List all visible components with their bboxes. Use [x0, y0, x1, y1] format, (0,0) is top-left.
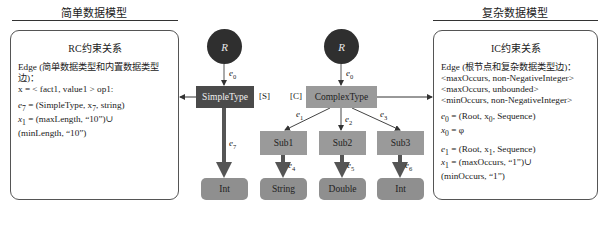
rc-panel-title: RC约束关系: [18, 43, 172, 54]
edge-label-e3: e3: [380, 109, 387, 121]
root-node-complex: R: [324, 29, 359, 64]
ic-edge-description: Edge (根节点和复杂数据类型边)：: [441, 62, 591, 73]
leaf-string: String: [260, 178, 307, 200]
edge-label-e2: e2: [345, 114, 352, 126]
ic-x1-definition: x1 = (maxOccurs, “1”)∪: [441, 157, 591, 171]
ic-constraint-panel: IC约束关系 Edge (根节点和复杂数据类型边)： <maxOccurs, n…: [433, 30, 598, 200]
edge-label-e1: e1: [296, 109, 303, 121]
leaf-int-simple: Int: [201, 178, 248, 200]
root-node-simple: R: [207, 29, 242, 64]
ic-max-occurs-nonneg: <maxOccurs, non-NegativeInteger>: [441, 73, 591, 84]
leaf-int-complex: Int: [377, 178, 424, 200]
edge-label-e0-right: e0: [346, 68, 353, 80]
rc-edge-description: Edge (简单数据类型和内置数据类型边)：: [18, 62, 172, 84]
rc-constraint-panel: RC约束关系 Edge (简单数据类型和内置数据类型边)： x = < fact…: [10, 30, 179, 200]
ic-x0-definition: x0 = φ: [441, 125, 591, 139]
edge-label-e5: e5: [347, 160, 354, 172]
ic-e0-definition: e0 = (Root, x0, Sequence): [441, 111, 591, 125]
ic-max-occurs-unbounded: <maxOccurs, unbounded>: [441, 84, 591, 95]
edge-label-e6: e6: [405, 160, 412, 172]
rc-x-definition: x = < fact1, value1 > op1:: [18, 84, 172, 95]
ic-panel-title: IC约束关系: [441, 43, 591, 54]
edge-label-e0-left: e0: [229, 68, 236, 80]
edge-label-e7: e7: [229, 138, 236, 150]
simple-type-node: SimpleType: [196, 86, 254, 108]
complex-tag: [C]: [290, 91, 302, 101]
complex-type-node: ComplexType: [306, 86, 377, 108]
sub1-node: Sub1: [260, 131, 307, 155]
leaf-double: Double: [319, 178, 366, 200]
sub3-node: Sub3: [377, 131, 424, 155]
ic-x1-definition-cont: (minOccurs, “1”): [441, 171, 591, 182]
simple-tag: [S]: [259, 91, 270, 101]
rc-x1-definition-cont: (minLength, “10”): [18, 128, 172, 139]
sub2-node: Sub2: [319, 131, 366, 155]
edge-label-e4: e4: [288, 160, 295, 172]
rc-x1-definition: x1 = (maxLength, “10”)∪: [18, 114, 172, 128]
rc-e7-definition: e7 = (SimpleType, x7, string): [18, 100, 172, 114]
ic-min-occurs-nonneg: <minOccurs, non-NegativeInteger>: [441, 95, 591, 106]
ic-e1-definition: e1 = (Root, x1, Sequence): [441, 144, 591, 158]
